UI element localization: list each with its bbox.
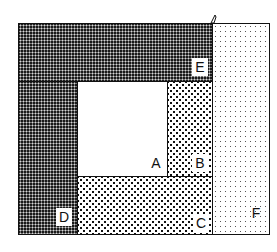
region-f: F	[212, 23, 270, 235]
region-e: E	[18, 23, 213, 82]
label-e: E	[192, 58, 208, 76]
label-f: F	[248, 204, 264, 222]
region-a: A	[77, 81, 168, 177]
label-b: B	[192, 154, 208, 172]
region-b: B	[167, 81, 213, 177]
label-d: D	[56, 208, 72, 226]
pen-cursor-icon	[210, 14, 220, 24]
region-c: C	[77, 176, 213, 235]
label-c: C	[193, 214, 209, 232]
label-a: A	[148, 154, 164, 172]
region-d: D	[18, 81, 78, 235]
